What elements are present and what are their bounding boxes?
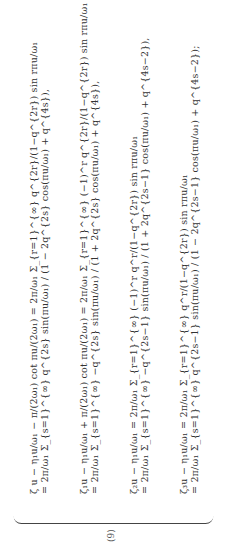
eq-lhs: ζ₁u − η₁u/ω₁ + π/(2ω₁) cot πu/(2ω₁) (78, 318, 89, 494)
eq-rhs: = 2π/ω₁ Σ_{s=1}^{∞} −q^{2s} sin(πu/ω₁) /… (89, 81, 100, 494)
left-brace (14, 509, 214, 524)
equation-zeta3: ζ₃u − η₁u/ω₁ = 2π/ω₁ Σ_{r=1}^{∞} q^r/(1−… (178, 45, 200, 494)
eq-mid: = 2π/ω₁ Σ_{r=1}^{∞} q^r/(1−q^{2r}) sin r… (178, 174, 189, 429)
eq-lhs: ζ₂u − η₁u/ω₁ (128, 432, 139, 494)
eq-lhs: ζ u − η₁u/ω₁ − π/(2ω₁) cot πu/(2ω₁) (28, 318, 39, 494)
eq-rhs: = 2π/ω₁ Σ_{s=1}^{∞} −q^{2s−1} sin(πu/ω₁)… (139, 37, 150, 494)
equation-zeta2: ζ₂u − η₁u/ω₁ = 2π/ω₁ Σ_{r=1}^{∞} (−1)^r … (128, 37, 150, 494)
eq-rhs: = 2π/ω₁ Σ_{s=1}^{∞} q^{2s} sin(πu/ω₁) / … (39, 89, 50, 494)
eq-mid: = 2π/ω₁ Σ_{r=1}^{∞} (−1)^r q^{2r}/(1−q^{… (78, 3, 89, 315)
eq-lhs: ζ₃u − η₁u/ω₁ (178, 432, 189, 494)
equation-zeta: ζ u − η₁u/ω₁ − π/(2ω₁) cot πu/(2ω₁) = 2π… (28, 42, 50, 494)
eq-mid: = 2π/ω₁ Σ_{r=1}^{∞} q^{2r}/(1−q^{2r}) si… (28, 42, 39, 316)
equation-number: (9) (106, 529, 116, 542)
eq-mid: = 2π/ω₁ Σ_{r=1}^{∞} (−1)^r q^r/(1−q^{2r}… (128, 136, 139, 429)
eq-rhs: = 2π/ω₁ Σ_{s=1}^{∞} q^{2s−1} sin(πu/ω₁) … (189, 45, 200, 494)
equation-zeta1: ζ₁u − η₁u/ω₁ + π/(2ω₁) cot πu/(2ω₁) = 2π… (78, 3, 100, 494)
